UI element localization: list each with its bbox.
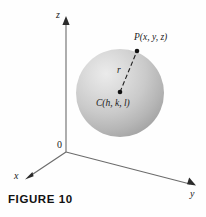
point-p-label: P(x, y, z) [134, 33, 167, 43]
x-axis-line [30, 152, 66, 176]
y-axis-line [66, 152, 190, 184]
radius-label: r [117, 66, 121, 76]
coordinate-sphere-diagram [0, 0, 206, 217]
point-marker-icon-center [118, 90, 123, 95]
origin-label: 0 [57, 140, 62, 150]
arrow-left-icon [25, 172, 34, 179]
z-axis-label: z [56, 10, 60, 20]
x-axis-label: x [14, 171, 18, 181]
arrow-up-icon [62, 16, 69, 25]
figure-container: z y x 0 P(x, y, z) C(h, k, l) r FIGURE 1… [0, 0, 206, 217]
arrow-right-icon [187, 177, 196, 185]
y-axis-label: y [190, 189, 194, 199]
figure-caption: FIGURE 10 [8, 193, 73, 205]
point-marker-icon-surface [135, 49, 140, 54]
point-c-label: C(h, k, l) [96, 99, 130, 109]
